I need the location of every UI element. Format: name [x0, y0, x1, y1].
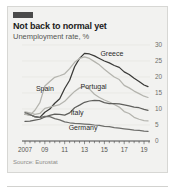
series-label-greece: Greece	[100, 50, 123, 57]
x-tick-label: 15	[101, 146, 109, 153]
series-labels: GreeceSpainPortugalItalyGermany	[36, 50, 124, 132]
series-label-italy: Italy	[71, 109, 84, 117]
x-tick-label: 09	[41, 146, 49, 153]
line-chart-svg: 051015202530 2007091113151719 GreeceSpai…	[8, 41, 167, 159]
series-label-germany: Germany	[69, 124, 98, 132]
chart-figure: Not back to normal yet Unemployment rate…	[0, 0, 175, 192]
chart-title: Not back to normal yet	[13, 21, 163, 31]
series-label-spain: Spain	[36, 85, 54, 93]
y-tick-label: 25	[155, 57, 163, 64]
plot-area: 051015202530 2007091113151719 GreeceSpai…	[8, 41, 167, 159]
x-tick-label: 11	[61, 146, 68, 153]
y-tick-label: 0	[155, 137, 159, 144]
chart-card: Not back to normal yet Unemployment rate…	[7, 6, 168, 173]
y-tick-label: 15	[155, 89, 163, 96]
chart-subtitle: Unemployment rate, %	[13, 32, 163, 41]
y-tick-label: 10	[155, 105, 163, 112]
x-tick-label: 17	[121, 146, 129, 153]
series-label-portugal: Portugal	[81, 83, 108, 91]
x-tick-label: 2007	[18, 146, 33, 153]
y-tick-label: 20	[155, 73, 163, 80]
x-tick-label: 19	[140, 146, 148, 153]
series-line-italy	[25, 100, 148, 121]
source-note: Source: Eurostat	[13, 159, 58, 165]
brand-tab-mark	[13, 12, 33, 18]
bottom-divider	[7, 186, 168, 187]
y-tick-label: 30	[155, 41, 163, 48]
x-tick-label: 13	[81, 146, 89, 153]
y-axis-ticks: 051015202530	[155, 41, 163, 144]
x-axis: 2007091113151719	[18, 141, 150, 153]
y-tick-label: 5	[155, 121, 159, 128]
